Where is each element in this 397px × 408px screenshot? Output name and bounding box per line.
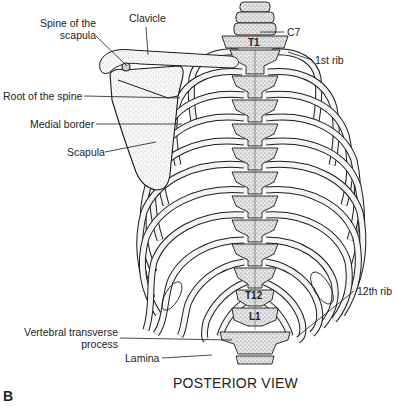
vertebra-label-l1: L1 [249, 311, 261, 322]
label-vertebral-transverse-process: Vertebral transverse process [10, 326, 118, 350]
label-root-of-spine: Root of the spine [3, 90, 82, 102]
vertebra-label-t12: T12 [245, 290, 262, 301]
view-title: POSTERIOR VIEW [173, 375, 298, 391]
label-1st-rib: 1st rib [315, 54, 344, 66]
label-spine-of-scapula: Spine of the scapula [28, 17, 96, 41]
vertebra-label-t1: T1 [248, 37, 260, 48]
label-clavicle: Clavicle [129, 12, 166, 24]
anatomy-figure: Spine of the scapula Clavicle C7 1st rib… [0, 0, 397, 408]
label-12th-rib: 12th rib [357, 285, 392, 297]
label-line: Spine of the [28, 17, 96, 29]
label-lamina: Lamina [125, 352, 159, 364]
label-line: Vertebral transverse [10, 326, 118, 338]
label-scapula: Scapula [67, 146, 105, 158]
label-c7: C7 [287, 26, 300, 38]
label-line: process [10, 338, 118, 350]
label-medial-border: Medial border [30, 118, 94, 130]
panel-letter: B [3, 388, 13, 404]
label-line: scapula [28, 29, 96, 41]
scapula-bone [110, 63, 183, 190]
